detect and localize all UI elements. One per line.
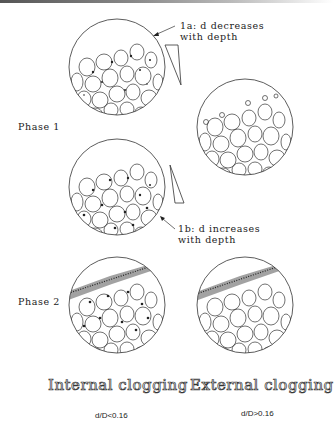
circle-phase1-right [197,79,293,178]
circle-internal-clogging [66,257,165,358]
internal-clogging-title: Internal clogging [48,376,188,394]
ratio-external: d/D>0.16 [241,409,274,418]
external-clogging-title: External clogging [190,376,334,394]
wedge-decreasing-icon [165,45,181,85]
annotation-1a-line1: 1a: d decreases [180,20,264,31]
circle-1b [69,139,165,238]
circle-1a [69,19,165,118]
annotation-1a: 1a: d decreases with depth [180,20,264,42]
ratio-internal: d/D<0.16 [95,411,128,420]
annotation-1b: 1b: d increases with depth [178,223,260,245]
phase-2-label: Phase 2 [18,296,60,307]
wedge-increasing-icon [170,165,184,203]
annotation-1b-line2: with depth [178,234,260,245]
circle-external-clogging [196,257,293,358]
annotation-1b-line1: 1b: d increases [178,223,260,234]
annotation-1a-line2: with depth [180,31,264,42]
phase-1-label: Phase 1 [18,121,60,132]
pointer-arrow-1b [163,219,175,229]
